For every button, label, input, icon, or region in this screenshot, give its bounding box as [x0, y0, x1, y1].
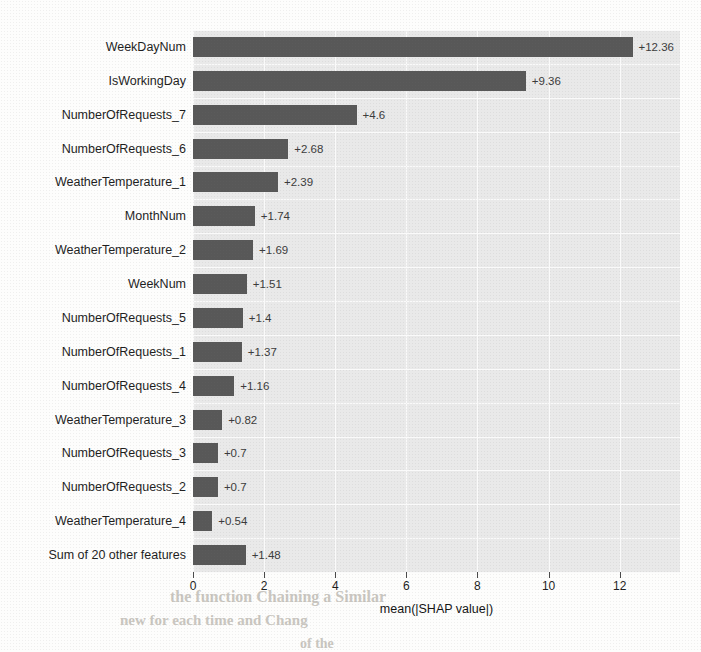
bar-value-label: +4.6: [363, 105, 386, 125]
bar: [193, 240, 253, 260]
bar-value-label: +9.36: [532, 71, 561, 91]
x-axis-tick-label: 10: [542, 579, 555, 593]
bar: [193, 105, 357, 125]
y-axis-labels: WeekDayNumIsWorkingDayNumberOfRequests_7…: [0, 30, 186, 572]
bar-value-label: +1.37: [248, 342, 277, 362]
horizontal-gridline: [193, 98, 680, 99]
y-axis-label: NumberOfRequests_6: [6, 139, 186, 159]
horizontal-gridline: [193, 64, 680, 65]
bar: [193, 545, 246, 565]
x-axis-tick: [549, 572, 550, 578]
bar: [193, 477, 218, 497]
bar: [193, 172, 278, 192]
bar-value-label: +0.7: [224, 443, 247, 463]
horizontal-gridline: [193, 233, 680, 234]
bar-value-label: +2.39: [284, 172, 313, 192]
bar-value-label: +2.68: [294, 139, 323, 159]
x-axis-tick: [406, 572, 407, 578]
bar-value-label: +1.51: [253, 274, 282, 294]
y-axis-label: WeekNum: [6, 274, 186, 294]
x-axis-tick-label: 2: [261, 579, 268, 593]
y-axis-label: Sum of 20 other features: [6, 545, 186, 565]
x-axis-tick: [193, 572, 194, 578]
x-axis-tick: [335, 572, 336, 578]
x-axis-tick-label: 4: [332, 579, 339, 593]
bar-value-label: +1.4: [249, 308, 272, 328]
x-axis-tick: [620, 572, 621, 578]
plot-panel: +12.36+9.36+4.6+2.68+2.39+1.74+1.69+1.51…: [193, 30, 680, 572]
bar: [193, 71, 526, 91]
y-axis-label: WeekDayNum: [6, 37, 186, 57]
horizontal-gridline: [193, 166, 680, 167]
horizontal-gridline: [193, 335, 680, 336]
bar-value-label: +12.36: [639, 37, 675, 57]
bar-value-label: +1.69: [259, 240, 288, 260]
x-axis-tick: [477, 572, 478, 578]
y-axis-label: WeatherTemperature_3: [6, 410, 186, 430]
y-axis-label: WeatherTemperature_4: [6, 511, 186, 531]
x-axis-title: mean(|SHAP value|): [193, 602, 680, 616]
horizontal-gridline: [193, 470, 680, 471]
horizontal-gridline: [193, 301, 680, 302]
horizontal-gridline: [193, 199, 680, 200]
horizontal-gridline: [193, 437, 680, 438]
y-axis-label: NumberOfRequests_1: [6, 342, 186, 362]
bar: [193, 308, 243, 328]
horizontal-gridline: [193, 132, 680, 133]
bar: [193, 206, 255, 226]
y-axis-label: NumberOfRequests_7: [6, 105, 186, 125]
horizontal-gridline: [193, 538, 680, 539]
x-axis-tick-label: 8: [474, 579, 481, 593]
x-axis-tick-label: 12: [613, 579, 626, 593]
horizontal-gridline: [193, 30, 680, 31]
bar: [193, 511, 212, 531]
y-axis-label: WeatherTemperature_1: [6, 172, 186, 192]
horizontal-gridline: [193, 403, 680, 404]
bar: [193, 139, 288, 159]
bar-value-label: +0.7: [224, 477, 247, 497]
horizontal-gridline: [193, 504, 680, 505]
bar-value-label: +1.48: [252, 545, 281, 565]
y-axis-label: NumberOfRequests_2: [6, 477, 186, 497]
y-axis-label: WeatherTemperature_2: [6, 240, 186, 260]
y-axis-label: NumberOfRequests_4: [6, 376, 186, 396]
bar: [193, 342, 242, 362]
bar: [193, 274, 247, 294]
bar: [193, 376, 234, 396]
horizontal-gridline: [193, 267, 680, 268]
y-axis-label: NumberOfRequests_3: [6, 443, 186, 463]
bar-value-label: +0.82: [228, 410, 257, 430]
shap-bar-chart-figure: WeekDayNumIsWorkingDayNumberOfRequests_7…: [0, 0, 701, 652]
x-axis-tick-label: 6: [403, 579, 410, 593]
bar: [193, 443, 218, 463]
bar-value-label: +0.54: [218, 511, 247, 531]
y-axis-label: IsWorkingDay: [6, 71, 186, 91]
horizontal-gridline: [193, 369, 680, 370]
bar: [193, 410, 222, 430]
bar-value-label: +1.74: [261, 206, 290, 226]
bar: [193, 37, 633, 57]
x-axis-tick-label: 0: [190, 579, 197, 593]
y-axis-label: MonthNum: [6, 206, 186, 226]
x-axis-tick: [264, 572, 265, 578]
y-axis-label: NumberOfRequests_5: [6, 308, 186, 328]
bar-value-label: +1.16: [240, 376, 269, 396]
